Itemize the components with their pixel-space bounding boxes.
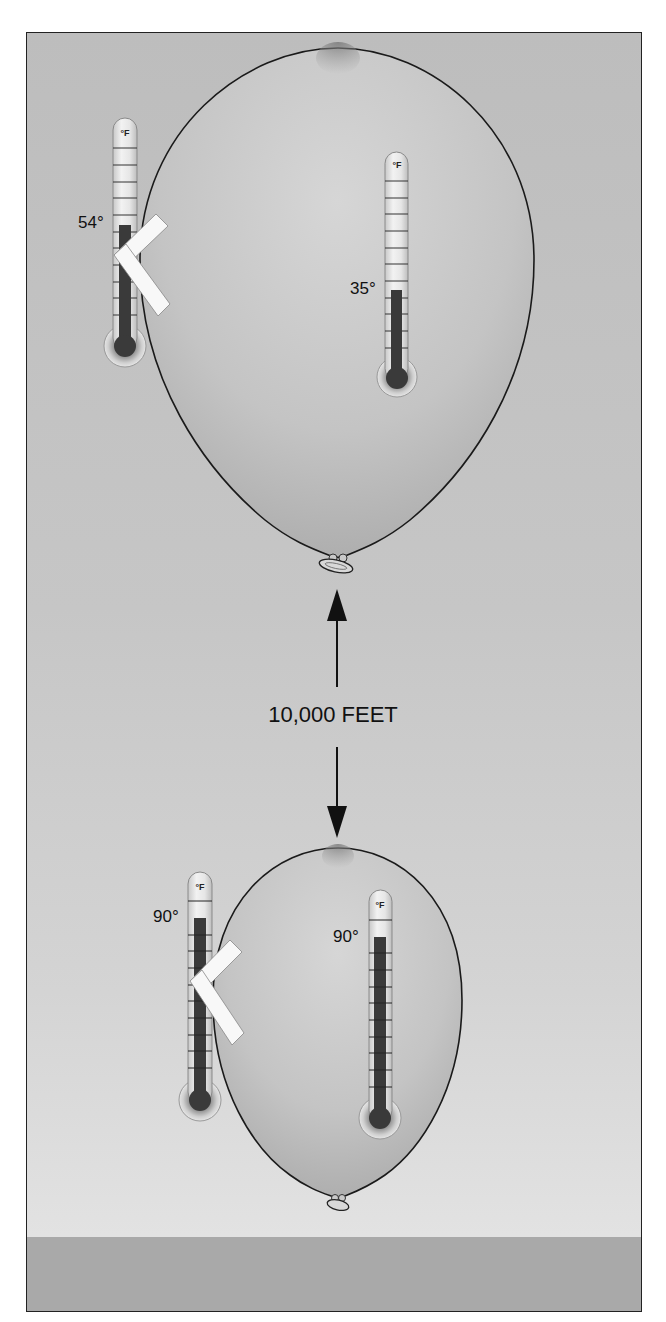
upper-balloon — [140, 42, 534, 575]
temp-reading-upper-inside: 35° — [350, 280, 376, 297]
svg-text:°F: °F — [392, 160, 402, 170]
svg-text:°F: °F — [120, 128, 130, 138]
temp-reading-upper-outside: 54° — [78, 214, 104, 231]
svg-text:°F: °F — [195, 882, 205, 892]
temp-reading-lower-inside: 90° — [333, 928, 359, 945]
altitude-label: 10,000 FEET — [0, 704, 666, 726]
diagram-art: °F °F — [0, 0, 666, 1322]
temp-reading-lower-outside: 90° — [153, 908, 179, 925]
svg-text:°F: °F — [375, 900, 385, 910]
lower-balloon — [213, 844, 462, 1212]
